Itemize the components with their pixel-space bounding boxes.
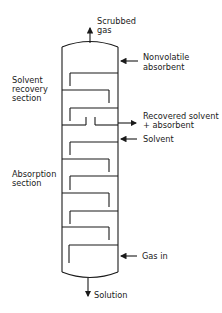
flow-arrows [88,28,138,296]
label-recovery-3: section [12,93,42,103]
label-solution: Solution [94,290,127,300]
label-absorbent: absorbent [143,62,185,72]
label-gas: gas [97,25,111,35]
absorption-trays [62,142,118,263]
label-gas-in: Gas in [142,251,168,261]
label-solvent: Solvent [143,134,175,144]
label-absorption-2: section [12,178,42,188]
absorption-column-diagram: Scrubbed gas Nonvolatile absorbent Solve… [0,0,222,313]
label-nonvolatile: Nonvolatile [143,52,189,62]
label-recovered-2: + absorbent [143,120,195,130]
recovery-trays [62,73,118,121]
